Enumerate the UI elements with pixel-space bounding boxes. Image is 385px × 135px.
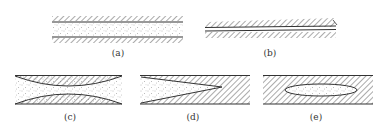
panel-label-c: (c) — [64, 112, 76, 122]
panel-label-e: (e) — [310, 112, 322, 122]
panel-c — [15, 76, 122, 105]
panel-label-d: (d) — [187, 112, 200, 122]
panel-a — [52, 16, 183, 43]
panel-label-a: (a) — [112, 48, 124, 58]
panel-b — [205, 18, 337, 38]
panel-label-b: (b) — [264, 48, 277, 58]
panel-d — [140, 76, 250, 105]
panel-e — [263, 76, 373, 105]
